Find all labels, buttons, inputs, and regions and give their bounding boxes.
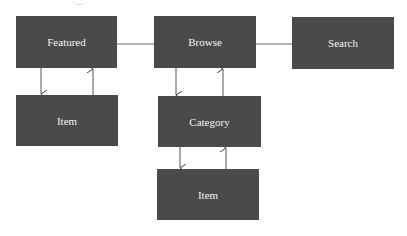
node-label: Category xyxy=(189,116,229,128)
diagram-canvas: Featured Browse Search Item Category Ite… xyxy=(0,0,407,236)
node-item-featured: Item xyxy=(16,95,118,146)
node-label: Item xyxy=(57,115,77,127)
node-browse: Browse xyxy=(154,16,256,68)
node-search: Search xyxy=(292,17,394,69)
node-label: Item xyxy=(198,189,218,201)
node-label: Featured xyxy=(47,36,85,48)
node-label: Browse xyxy=(188,36,222,48)
node-category: Category xyxy=(158,96,261,147)
node-item-category: Item xyxy=(157,169,259,220)
node-label: Search xyxy=(328,37,358,49)
node-featured: Featured xyxy=(16,16,117,68)
